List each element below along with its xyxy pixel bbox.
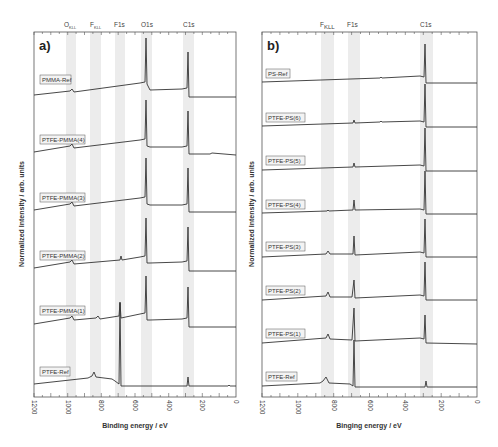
series-labels: PS-Ref PTFE-PS(6) PTFE-PS(5) PTFE-PS(4) … (266, 69, 305, 381)
marker-o1s: O1s (141, 21, 154, 28)
spectra-lines (34, 38, 236, 386)
series-label-ptfe-pmma-1: PTFE-PMMA(1) (42, 308, 85, 314)
spectrum-ptfe-pmma-3 (34, 158, 236, 212)
marker-f1s: F1s (347, 21, 359, 28)
series-label-pmma-ref: PMMA-Ref (42, 77, 72, 83)
svg-text:1200: 1200 (259, 400, 266, 415)
svg-text:600: 600 (367, 400, 374, 411)
svg-text:600: 600 (132, 400, 139, 411)
marker-fkll: FKLL (320, 21, 335, 30)
peak-bands (321, 32, 433, 397)
marker-okll: OKLL (64, 21, 77, 30)
marker-f1s: F1s (114, 21, 126, 28)
marker-fkll: FKLL (90, 21, 102, 30)
svg-text:1200: 1200 (31, 400, 38, 415)
marker-c1s: C1s (183, 21, 195, 28)
svg-text:200: 200 (199, 400, 206, 411)
series-label-ptfe-pmma-4: PTFE-PMMA(4) (42, 137, 85, 143)
series-label-ptfe-ps-2: PTFE-PS(2) (268, 288, 301, 294)
x-tick-labels: 1200 1000 800 600 400 200 0 (31, 400, 240, 415)
plot-frame (262, 32, 477, 397)
series-label-ptfe-ref: PTFE-Ref (268, 374, 295, 380)
series-label-ptfe-ps-6: PTFE-PS(6) (268, 115, 301, 121)
series-label-ptfe-ps-1: PTFE-PS(1) (268, 331, 301, 337)
series-label-ps-ref: PS-Ref (268, 71, 288, 77)
peak-bands (66, 32, 194, 397)
series-label-ptfe-ps-4: PTFE-PS(4) (268, 202, 301, 208)
y-axis-title-b: Normalized Intensity / arb. units (248, 161, 256, 267)
chart-panel-a: OKLL FKLL F1s O1s C1s a) PMMA-Ref PTFE-P… (18, 21, 240, 430)
svg-text:800: 800 (331, 400, 338, 411)
figure: OKLL FKLL F1s O1s C1s a) PMMA-Ref PTFE-P… (0, 0, 498, 447)
plot-frame (34, 32, 236, 397)
panel-label-b: b) (267, 38, 279, 53)
svg-text:0: 0 (474, 400, 481, 404)
svg-text:400: 400 (166, 400, 173, 411)
top-ticks (262, 32, 468, 35)
series-label-ptfe-pmma-3: PTFE-PMMA(3) (42, 195, 85, 201)
series-label-ptfe-pmma-2: PTFE-PMMA(2) (42, 253, 85, 259)
x-axis-title-b: Binging energy / eV (336, 422, 402, 430)
y-axis-title-a: Normalized Intensity / arb. units (18, 161, 26, 267)
svg-text:1000: 1000 (295, 400, 302, 415)
series-label-ptfe-ref: PTFE-Ref (42, 369, 69, 375)
x-axis-title-a: Binding energy / eV (102, 422, 168, 430)
marker-c1s: C1s (420, 21, 432, 28)
panel-label-a: a) (39, 38, 51, 53)
spectrum-pmma-ref (34, 38, 236, 97)
spectrum-ptfe-pmma-4 (34, 100, 236, 155)
spectrum-ps-ref (262, 44, 477, 83)
svg-text:1000: 1000 (65, 400, 72, 415)
top-ticks (34, 32, 228, 35)
spectrum-ptfe-ps-3 (262, 219, 477, 257)
spectrum-ptfe-pmma-2 (34, 218, 236, 271)
series-labels: PMMA-Ref PTFE-PMMA(4) PTFE-PMMA(3) PTFE-… (40, 75, 85, 376)
bottom-ticks (34, 393, 228, 397)
spectrum-ptfe-pmma-1 (34, 276, 236, 327)
series-label-ptfe-ps-3: PTFE-PS(3) (268, 244, 301, 250)
series-label-ptfe-ps-5: PTFE-PS(5) (268, 158, 301, 164)
spectrum-ptfe-ps-1 (262, 308, 477, 344)
svg-text:0: 0 (233, 400, 240, 404)
bottom-ticks (262, 393, 468, 397)
svg-text:400: 400 (402, 400, 409, 411)
x-tick-labels: 1200 1000 800 600 400 200 0 (259, 400, 481, 415)
svg-text:800: 800 (98, 400, 105, 411)
svg-text:200: 200 (438, 400, 445, 411)
chart-panel-b: FKLL F1s C1s b) PS-Ref PTFE-PS(6) PTFE-P… (248, 21, 481, 430)
